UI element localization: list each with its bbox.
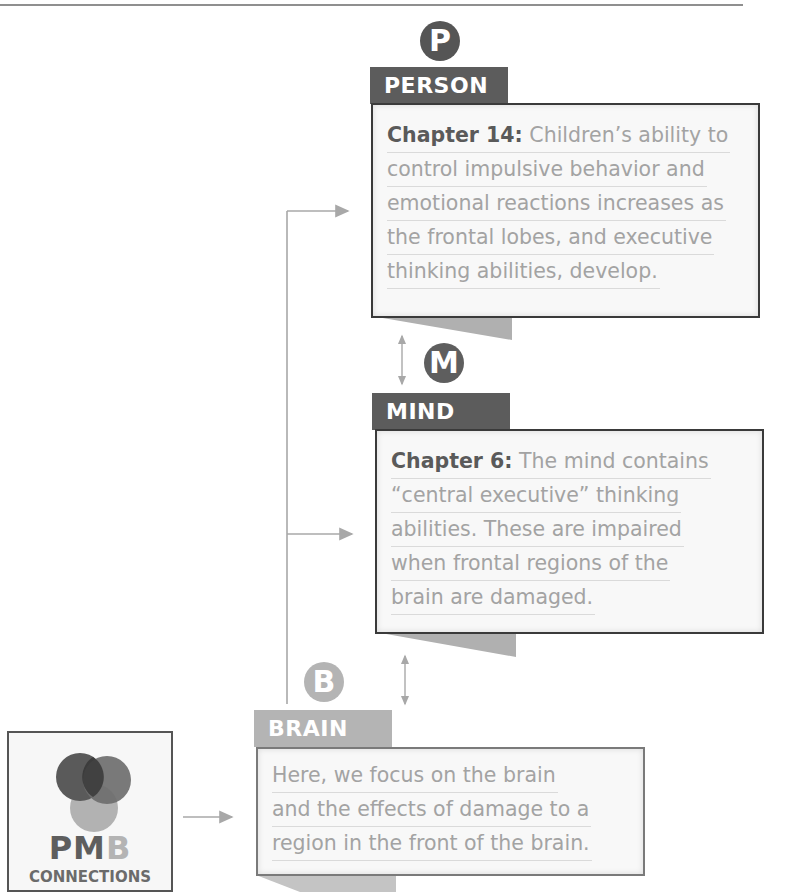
mind-label: MIND bbox=[372, 393, 510, 430]
person-line-2: control impulsive behavior and bbox=[387, 153, 707, 187]
mind-box: Chapter 6: The mind contains “central ex… bbox=[375, 429, 764, 634]
person-label: PERSON bbox=[370, 67, 508, 104]
brain-label: BRAIN bbox=[254, 710, 392, 747]
logo-connections-text: CONNECTIONS bbox=[9, 868, 171, 886]
person-line-1: Chapter 14: Children’s ability to bbox=[387, 119, 730, 153]
brain-line-1: Here, we focus on the brain bbox=[272, 759, 558, 793]
mind-line-2: “central executive” thinking bbox=[391, 479, 681, 513]
mind-line-4: when frontal regions of the bbox=[391, 547, 670, 581]
person-line-4: the frontal lobes, and executive bbox=[387, 221, 714, 255]
mind-line-1: Chapter 6: The mind contains bbox=[391, 445, 711, 479]
brain-box-tail bbox=[256, 875, 396, 892]
pmb-connections-logo: PMB CONNECTIONS bbox=[7, 731, 173, 892]
venn-icon bbox=[9, 733, 171, 833]
person-badge-icon: P bbox=[420, 21, 460, 61]
brain-badge-icon: B bbox=[304, 662, 344, 702]
brain-line-2: and the effects of damage to a bbox=[272, 793, 591, 827]
person-line-5: thinking abilities, develop. bbox=[387, 255, 660, 289]
mind-badge-icon: M bbox=[424, 343, 464, 383]
logo-pmb-text: PMB bbox=[9, 829, 171, 867]
brain-box: Here, we focus on the brain and the effe… bbox=[256, 747, 645, 876]
brain-line-3: region in the front of the brain. bbox=[272, 827, 592, 861]
person-box-tail bbox=[371, 316, 512, 340]
mind-box-tail bbox=[375, 632, 516, 657]
person-line-3: emotional reactions increases as bbox=[387, 187, 726, 221]
mind-line-3: abilities. These are impaired bbox=[391, 513, 684, 547]
mind-line-5: brain are damaged. bbox=[391, 581, 595, 615]
person-box: Chapter 14: Children’s ability to contro… bbox=[371, 103, 760, 318]
